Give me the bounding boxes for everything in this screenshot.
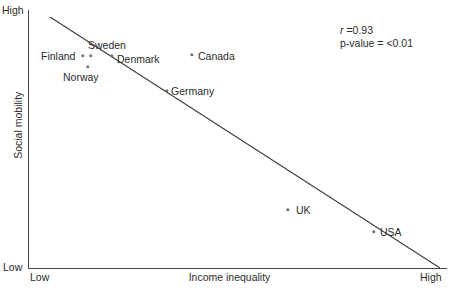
x-axis-line [28,268,447,269]
scatter-plot-figure: High Low Low High Income inequality Soci… [0,0,459,294]
data-point-sweden [89,54,92,57]
data-point-uk [286,208,289,211]
x-axis-title: Income inequality [0,272,459,283]
y-axis-low-label: Low [3,262,22,273]
y-axis-high-label: High [2,5,24,16]
p-value-text: p-value = <0.01 [340,37,413,50]
data-point-finland [81,54,84,57]
data-point-label-sweden: Sweden [88,40,126,51]
correlation-coefficient-text: r =0.93 [340,24,413,37]
data-point-label-canada: Canada [198,51,235,62]
y-axis-title: Social mobility [13,65,24,185]
data-point-denmark [110,54,113,57]
data-point-label-finland: Finland [41,51,75,62]
y-axis-line [28,10,29,269]
data-point-canada [190,53,193,56]
data-point-germany [165,89,168,92]
data-point-label-uk: UK [296,205,311,216]
r-value-text: =0.93 [344,24,374,36]
data-point-norway [86,65,89,68]
data-point-label-usa: USA [380,227,402,238]
data-point-label-norway: Norway [63,72,99,83]
data-point-label-denmark: Denmark [117,54,160,65]
data-point-label-germany: Germany [171,86,214,97]
data-point-usa [372,230,375,233]
statistics-annotation: r =0.93 p-value = <0.01 [340,24,413,50]
